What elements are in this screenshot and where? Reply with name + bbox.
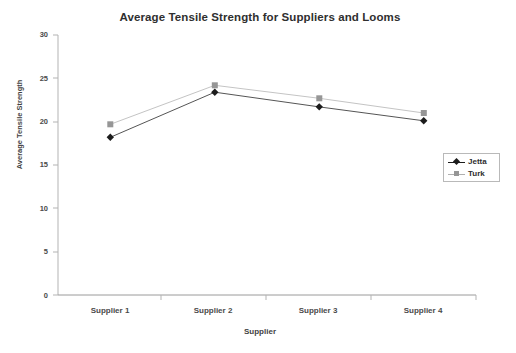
data-point-jetta-0 bbox=[107, 134, 114, 141]
data-point-jetta-3 bbox=[420, 117, 427, 124]
data-point-jetta-2 bbox=[316, 103, 323, 110]
data-point-turk-2 bbox=[316, 95, 322, 101]
legend-label-jetta: Jetta bbox=[468, 157, 487, 167]
series-line-turk bbox=[110, 85, 424, 124]
data-series-layer bbox=[107, 82, 428, 141]
series-line-jetta bbox=[110, 92, 424, 137]
plot-area bbox=[0, 0, 516, 353]
legend-entry-jetta: Jetta bbox=[448, 156, 487, 168]
legend-swatch-turk bbox=[448, 169, 465, 179]
y-axis bbox=[53, 35, 58, 295]
data-point-turk-3 bbox=[421, 110, 427, 116]
legend-label-turk: Turk bbox=[468, 169, 485, 179]
data-point-turk-1 bbox=[212, 82, 218, 88]
legend-swatch-jetta bbox=[448, 157, 465, 167]
legend-entry-turk: Turk bbox=[448, 168, 485, 180]
data-point-jetta-1 bbox=[211, 89, 218, 96]
chart-legend: Jetta Turk bbox=[443, 153, 500, 182]
chart-container: Average Tensile Strength for Suppliers a… bbox=[0, 0, 516, 353]
data-point-turk-0 bbox=[107, 121, 113, 127]
x-axis bbox=[58, 295, 476, 300]
